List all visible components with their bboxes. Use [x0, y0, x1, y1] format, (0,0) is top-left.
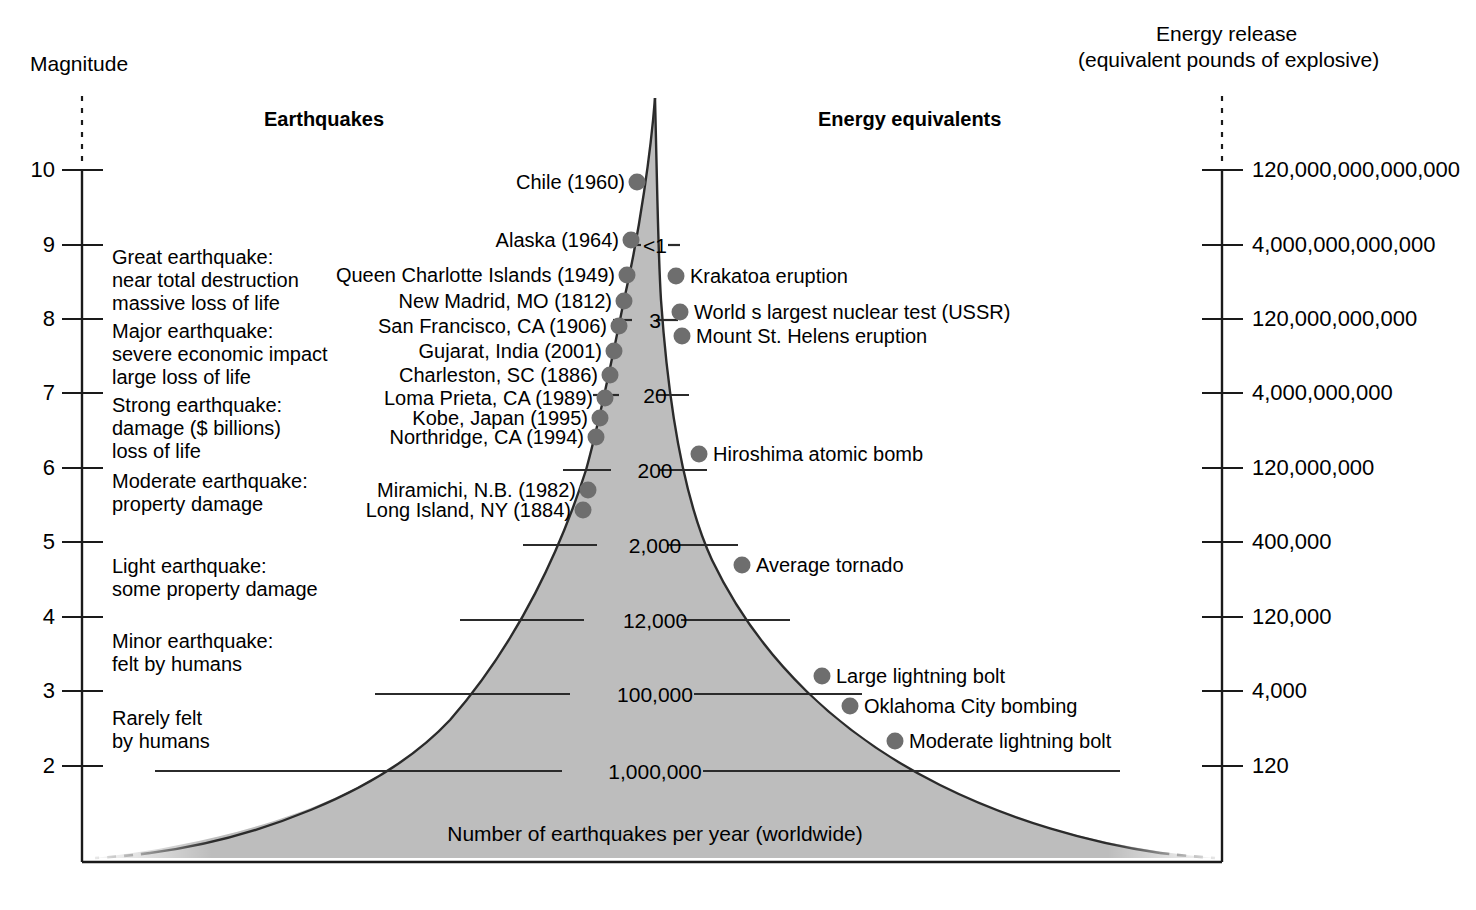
earthquake-label-chile-1960: Chile (1960) [200, 171, 625, 195]
energy-label-mount-st-helens: Mount St. Helens eruption [696, 325, 927, 349]
dot-charleston-1886 [602, 367, 619, 384]
magnitude-tick-10: 10 [0, 157, 55, 183]
earthquake-label-alaska-1964: Alaska (1964) [200, 229, 619, 253]
severity-block-minor: Minor earthquake: felt by humans [112, 630, 273, 676]
earthquake-label-new-madrid-1812: New Madrid, MO (1812) [200, 290, 612, 314]
dot-kobe-1995 [592, 410, 609, 427]
energy-label-moderate-lightning: Moderate lightning bolt [909, 730, 1111, 754]
severity-light-line-0: Light earthquake: [112, 555, 318, 578]
energy-tick-9: 4,000,000,000,000 [1252, 232, 1436, 258]
dot-chile-1960 [629, 174, 646, 191]
magnitude-tick-6: 6 [0, 455, 55, 481]
dot-northridge-1994 [588, 429, 605, 446]
energy-tick-7: 4,000,000,000 [1252, 380, 1393, 406]
energy-axis-title-line2: (equivalent pounds of explosive) [1078, 48, 1379, 73]
frequency-label-2000: 2,000 [595, 534, 715, 559]
column-heading-earthquakes: Earthquakes [264, 108, 384, 132]
energy-label-hiroshima: Hiroshima atomic bomb [713, 443, 923, 467]
dot-loma-prieta-1989 [597, 390, 614, 407]
magnitude-tick-5: 5 [0, 529, 55, 555]
frequency-label-12000: 12,000 [585, 609, 725, 634]
bottom-caption: Number of earthquakes per year (worldwid… [405, 822, 905, 847]
dot-krakatoa [668, 268, 685, 285]
dot-miramichi-1982 [580, 482, 597, 499]
earthquake-label-san-francisco-1906: San Francisco, CA (1906) [200, 315, 607, 339]
energy-axis-title-line1: Energy release [1156, 22, 1297, 47]
frequency-label-200: 200 [605, 459, 705, 484]
magnitude-tick-4: 4 [0, 604, 55, 630]
dot-moderate-lightning [887, 733, 904, 750]
earthquake-label-queen-charlotte-1949: Queen Charlotte Islands (1949) [200, 264, 615, 288]
dot-queen-charlotte-1949 [619, 267, 636, 284]
magnitude-tick-2: 2 [0, 753, 55, 779]
frequency-label-1000000: 1,000,000 [560, 760, 750, 785]
column-heading-energy-equivalents: Energy equivalents [818, 108, 1001, 132]
dot-long-island-1884 [575, 502, 592, 519]
energy-label-oklahoma-city: Oklahoma City bombing [864, 695, 1077, 719]
severity-minor-line-0: Minor earthquake: [112, 630, 273, 653]
dot-large-lightning [814, 668, 831, 685]
severity-rarely-line-1: by humans [112, 730, 210, 753]
frequency-label-3: 3 [615, 309, 695, 334]
severity-rarely-line-0: Rarely felt [112, 707, 210, 730]
earthquake-label-gujarat-2001: Gujarat, India (2001) [200, 340, 602, 364]
frequency-label-20: 20 [615, 384, 695, 409]
energy-label-krakatoa: Krakatoa eruption [690, 265, 848, 289]
energy-tick-8: 120,000,000,000 [1252, 306, 1417, 332]
magnitude-tick-7: 7 [0, 380, 55, 406]
dot-average-tornado [734, 557, 751, 574]
earthquake-magnitude-diagram: Magnitude Energy release (equivalent pou… [0, 0, 1476, 910]
energy-tick-6: 120,000,000 [1252, 455, 1374, 481]
energy-label-average-tornado: Average tornado [756, 554, 904, 578]
severity-block-rarely-felt: Rarely felt by humans [112, 707, 210, 753]
frequency-label-less-than-1: <1 [615, 234, 695, 259]
severity-minor-line-1: felt by humans [112, 653, 273, 676]
earthquake-label-charleston-1886: Charleston, SC (1886) [200, 364, 598, 388]
earthquake-label-northridge-1994: Northridge, CA (1994) [200, 426, 584, 450]
earthquake-label-long-island-1884: Long Island, NY (1884) [200, 499, 571, 523]
energy-tick-2: 120 [1252, 753, 1289, 779]
energy-tick-10: 120,000,000,000,000 [1252, 157, 1460, 183]
magnitude-axis-title: Magnitude [30, 52, 128, 77]
energy-tick-4: 120,000 [1252, 604, 1332, 630]
severity-light-line-1: some property damage [112, 578, 318, 601]
magnitude-tick-3: 3 [0, 678, 55, 704]
severity-block-light: Light earthquake: some property damage [112, 555, 318, 601]
magnitude-tick-9: 9 [0, 232, 55, 258]
energy-label-nuclear-test: World s largest nuclear test (USSR) [694, 301, 1010, 325]
magnitude-tick-8: 8 [0, 306, 55, 332]
energy-label-large-lightning: Large lightning bolt [836, 665, 1005, 689]
dot-gujarat-2001 [606, 343, 623, 360]
dot-new-madrid-1812 [616, 293, 633, 310]
frequency-label-100000: 100,000 [570, 683, 740, 708]
energy-axis [1202, 96, 1243, 862]
dot-oklahoma-city [842, 698, 859, 715]
energy-tick-5: 400,000 [1252, 529, 1332, 555]
energy-tick-3: 4,000 [1252, 678, 1307, 704]
